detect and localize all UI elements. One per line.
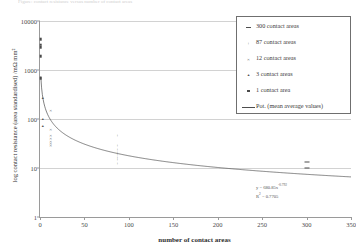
legend-marker-icon bbox=[241, 87, 256, 95]
legend-marker-icon bbox=[241, 55, 256, 63]
legend-item-label: 300 contact areas bbox=[256, 22, 299, 30]
figure-caption: Figure: contact resistance versus number… bbox=[18, 0, 318, 7]
x-tick-label: 150 bbox=[168, 221, 178, 228]
x-tick-label: 350 bbox=[346, 221, 356, 228]
x-tick-label: 300 bbox=[302, 221, 312, 228]
legend-marker-icon bbox=[241, 103, 256, 111]
legend-marker-icon bbox=[241, 39, 256, 47]
x-tick-label: 0 bbox=[38, 221, 41, 228]
legend-item-label: Pot. (mean average values) bbox=[256, 102, 323, 110]
r2-value: = 0.7705 bbox=[261, 193, 279, 198]
y-tick-label: 10000 bbox=[21, 18, 37, 25]
legend-item-label: 87 contact areas bbox=[256, 38, 296, 46]
y-axis-label: log contact resistance (area standardise… bbox=[11, 26, 18, 206]
legend-item[interactable]: 3 contact areas bbox=[241, 70, 346, 86]
data-point bbox=[41, 116, 45, 122]
data-point bbox=[49, 143, 52, 148]
x-tick-mark bbox=[40, 217, 41, 220]
data-point bbox=[49, 127, 52, 132]
data-point bbox=[41, 123, 45, 129]
x-tick-mark bbox=[173, 217, 174, 220]
legend-item-label: 3 contact areas bbox=[256, 70, 293, 78]
data-point bbox=[40, 38, 43, 41]
x-tick-mark bbox=[129, 217, 130, 220]
data-point bbox=[40, 77, 43, 80]
x-tick-mark bbox=[84, 217, 85, 220]
x-tick-mark bbox=[218, 217, 219, 220]
legend-marker-icon bbox=[241, 23, 256, 31]
legend-item-label: 1 contact area bbox=[256, 86, 290, 94]
x-tick-label: 250 bbox=[257, 221, 267, 228]
legend-item[interactable]: 12 contact areas bbox=[241, 54, 346, 70]
legend-item[interactable]: Pot. (mean average values) bbox=[241, 102, 346, 118]
data-point bbox=[41, 95, 45, 101]
x-tick-label: 100 bbox=[124, 221, 134, 228]
equation-exponent: -0.792 bbox=[278, 183, 287, 187]
y-tick-label: 1000 bbox=[24, 67, 37, 74]
legend-item[interactable]: 1 contact area bbox=[241, 86, 346, 102]
legend-item[interactable]: 87 contact areas bbox=[241, 38, 346, 54]
data-point bbox=[304, 167, 309, 168]
legend-item-label: 12 contact areas bbox=[256, 54, 296, 62]
data-point bbox=[49, 108, 52, 113]
y-tick-label: 100 bbox=[27, 116, 37, 123]
trendline-equation: y = 680.85x-0.792 R2 = 0.7705 bbox=[256, 182, 336, 199]
data-point bbox=[116, 132, 119, 137]
x-tick-label: 50 bbox=[81, 221, 88, 228]
legend-item[interactable]: 300 contact areas bbox=[241, 22, 346, 38]
legend-marker-icon bbox=[241, 71, 256, 79]
data-point bbox=[40, 46, 43, 49]
chart-figure: Figure: contact resistance versus number… bbox=[0, 0, 356, 249]
x-tick-mark bbox=[307, 217, 308, 220]
data-point bbox=[40, 55, 43, 58]
equation-text: y = 680.85x bbox=[256, 185, 278, 190]
x-tick-mark bbox=[351, 217, 352, 220]
data-point bbox=[116, 161, 119, 166]
data-point bbox=[304, 161, 309, 162]
x-axis-label: number of contact areas bbox=[39, 236, 350, 244]
x-tick-mark bbox=[262, 217, 263, 220]
chart-legend: 300 contact areas87 contact areas12 cont… bbox=[236, 16, 351, 114]
x-tick-label: 200 bbox=[213, 221, 223, 228]
